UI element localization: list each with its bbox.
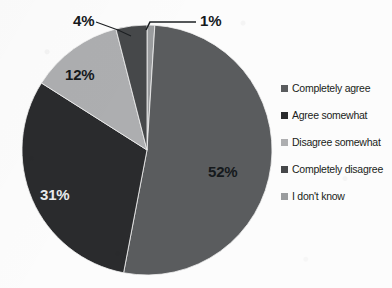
legend-item-disagree-somewhat[interactable]: Disagree somewhat <box>281 136 389 163</box>
legend-swatch-icon <box>281 139 288 146</box>
legend-item-i-don-t-know[interactable]: I don't know <box>281 190 389 217</box>
legend-item-label: Disagree somewhat <box>292 136 381 148</box>
legend-item-label: Completely disagree <box>292 163 383 175</box>
slice-label-disagree-somewhat: 12% <box>65 66 94 83</box>
legend-swatch-icon <box>281 193 288 200</box>
legend-swatch-icon <box>281 112 288 119</box>
slice-label-completely-agree: 52% <box>208 163 237 180</box>
slice-label-agree-somewhat: 31% <box>40 186 69 203</box>
chart-legend: Completely agreeAgree somewhatDisagree s… <box>281 82 389 217</box>
pie-slices-group <box>22 25 272 275</box>
legend-item-agree-somewhat[interactable]: Agree somewhat <box>281 109 389 136</box>
legend-item-label: Completely agree <box>292 82 370 94</box>
legend-item-label: Agree somewhat <box>292 109 367 121</box>
legend-swatch-icon <box>281 166 288 173</box>
callout-label-i-dont-know: 1% <box>200 12 222 29</box>
legend-item-completely-disagree[interactable]: Completely disagree <box>281 163 389 190</box>
callout-label-completely-disagree: 4% <box>73 12 95 29</box>
legend-swatch-icon <box>281 85 288 92</box>
legend-item-completely-agree[interactable]: Completely agree <box>281 82 389 109</box>
legend-item-label: I don't know <box>292 190 345 202</box>
pie-chart-figure: 52% 31% 12% 4% 1% Completely agreeAgree … <box>0 0 392 288</box>
